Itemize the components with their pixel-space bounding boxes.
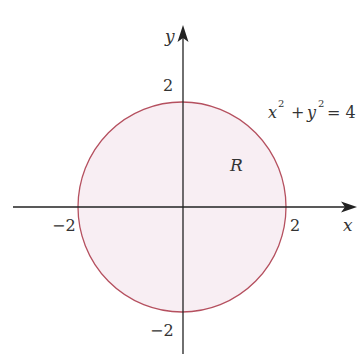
eq-x-exp: 2	[278, 98, 284, 109]
tick-y-neg: −2	[150, 321, 174, 340]
eq-y-exp: 2	[318, 98, 324, 109]
eq-equals: = 4	[327, 103, 356, 122]
x-axis-label: x	[343, 215, 353, 235]
eq-x: x	[268, 103, 277, 122]
eq-y: y	[306, 103, 317, 122]
tick-y-pos: 2	[163, 76, 173, 95]
region-label: R	[229, 155, 243, 175]
eq-plus: +	[291, 103, 304, 122]
tick-x-pos: 2	[290, 216, 300, 235]
disk-diagram: y x 2 −2 −2 2 R x 2 + y 2 = 4	[0, 0, 362, 358]
tick-x-neg: −2	[52, 216, 76, 235]
circle-equation: x 2 + y 2 = 4	[268, 98, 356, 122]
y-axis-label: y	[164, 26, 175, 46]
